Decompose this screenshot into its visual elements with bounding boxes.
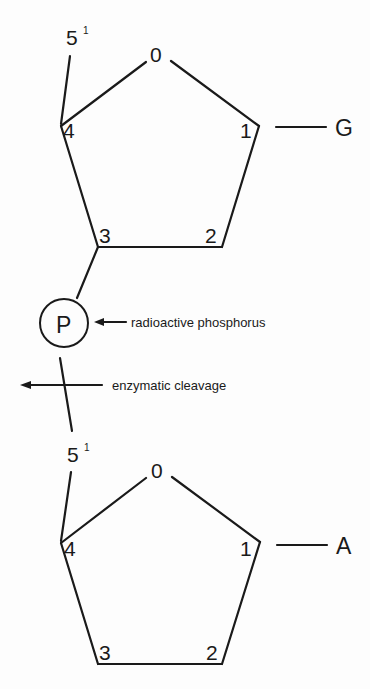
bottom-ring-c4-label: 4 xyxy=(64,537,76,560)
top-ring-c3-label: 3 xyxy=(99,224,111,247)
bottom-ring-c1-label: 1 xyxy=(240,537,252,560)
bottom-c5-label: 5 xyxy=(67,443,79,466)
cleavage-annotation: enzymatic cleavage xyxy=(112,378,226,393)
bottom-c5-prime: 1 xyxy=(84,442,90,453)
bottom-ring-c2-label: 2 xyxy=(206,641,218,664)
bottom-ring-o-label: 0 xyxy=(151,459,163,482)
bottom-bond-o-c1 xyxy=(172,477,260,542)
phosphate-label: P xyxy=(56,312,71,338)
top-c5-prime: 1 xyxy=(83,25,89,36)
top-bond-o-c1 xyxy=(171,61,259,126)
diagram-canvas: 0 1 2 3 4 5 1 G P radioactive phosphorus… xyxy=(0,0,370,689)
bond-c3-phosphate xyxy=(77,247,98,298)
diagram-svg: 0 1 2 3 4 5 1 G P radioactive phosphorus… xyxy=(0,0,370,689)
cleavage-arrow-head-icon xyxy=(20,381,31,389)
top-bond-c1-c2 xyxy=(222,126,259,247)
bottom-sugar-ring: 0 1 2 3 4 5 1 A xyxy=(61,442,352,664)
bottom-bond-c1-c2 xyxy=(222,542,260,664)
top-ring-c2-label: 2 xyxy=(205,224,217,247)
bottom-bond-c4-o xyxy=(61,478,146,543)
radioactive-annotation: radioactive phosphorus xyxy=(131,315,266,330)
top-ring-o-label: 0 xyxy=(150,43,162,66)
top-c5-label: 5 xyxy=(66,26,78,49)
top-sugar-ring: 0 1 2 3 4 5 1 G xyxy=(61,25,353,247)
phosphate-group: P radioactive phosphorus enzymatic cleav… xyxy=(20,247,266,431)
bottom-base-label: A xyxy=(336,533,352,559)
bond-phosphate-c5 xyxy=(60,358,72,431)
top-bond-c3-c4 xyxy=(61,126,98,247)
top-ring-c1-label: 1 xyxy=(240,119,252,142)
bottom-bond-c3-c4 xyxy=(61,543,98,664)
top-bond-c4-c5 xyxy=(61,56,70,124)
bottom-ring-c3-label: 3 xyxy=(99,641,111,664)
top-ring-c4-label: 4 xyxy=(63,119,75,142)
top-base-label: G xyxy=(335,115,353,141)
radioactive-arrow-head-icon xyxy=(94,318,104,326)
top-bond-c4-o xyxy=(61,62,146,126)
bottom-bond-c4-c5 xyxy=(61,472,71,541)
